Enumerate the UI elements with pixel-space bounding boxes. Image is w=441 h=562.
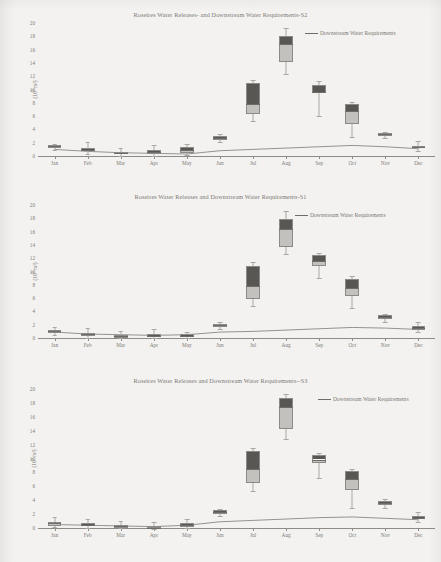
y-axis-tick-label: 16 [30, 230, 35, 235]
whisker-cap-upper [85, 519, 90, 520]
x-axis-tick-label: Dec [414, 161, 423, 166]
box-plot [378, 24, 392, 157]
chart-legend: Downstream Water Requirements [318, 396, 409, 402]
chart-title: Roseires Water Releases and Downstream W… [0, 377, 441, 384]
median-line [213, 325, 227, 326]
whisker-cap-lower [151, 156, 156, 157]
whisker-cap-lower [251, 306, 256, 307]
median-line [312, 261, 326, 262]
x-axis-tick-label: Nov [381, 343, 390, 348]
median-line [412, 328, 426, 329]
chart-legend: Downstream Water Requirements [295, 212, 386, 218]
x-axis-tick-label: Sep [315, 343, 323, 348]
whisker-upper [286, 211, 287, 220]
whisker-cap-lower [151, 338, 156, 339]
x-axis-tick-label: Jan [51, 343, 58, 348]
box-outline [279, 398, 293, 429]
x-axis-tick-label: Nov [381, 161, 390, 166]
y-axis-tick-label: 4 [32, 310, 35, 315]
whisker-cap-lower [416, 522, 421, 523]
downstream-water-requirements-line [38, 390, 435, 528]
whisker-lower [352, 296, 353, 308]
box-plot [147, 390, 161, 529]
box-plot [48, 390, 62, 529]
y-axis-title-exponent: 9 [31, 271, 35, 273]
y-axis-tick-label: 0 [32, 154, 35, 159]
box-plot [81, 390, 95, 529]
box-plot [180, 206, 194, 339]
whisker-lower [286, 247, 287, 254]
whisker-lower [253, 114, 254, 121]
y-axis-title: (109 m³) [31, 241, 38, 301]
whisker-cap-lower [52, 150, 57, 151]
box-plot [180, 24, 194, 157]
box-plot [48, 24, 62, 157]
y-axis-tick-label: 2 [32, 512, 35, 517]
whisker-cap-upper [151, 522, 156, 523]
box-outline [246, 451, 260, 483]
whisker-lower [352, 124, 353, 137]
median-line [246, 104, 260, 105]
box-outline [279, 36, 293, 62]
whisker-cap-upper [251, 262, 256, 263]
median-line [48, 331, 62, 332]
whisker-cap-lower [284, 439, 289, 440]
whisker-cap-upper [52, 517, 57, 518]
median-line [246, 286, 260, 287]
x-axis-tick-label: Jul [250, 343, 256, 348]
x-axis-tick-label: Sep [315, 161, 323, 166]
y-axis-tick-label: 18 [30, 35, 35, 40]
whisker-cap-upper [284, 28, 289, 29]
median-line [345, 288, 359, 289]
whisker-cap-upper [52, 327, 57, 328]
downstream-water-requirements-line [38, 206, 435, 338]
plot-area: 02468101214161820(109 m³)JanFebMarAprMay… [38, 206, 435, 339]
x-axis-tick-label: Mar [116, 533, 125, 538]
x-axis-tick-label: Apr [150, 533, 158, 538]
plot-area: 02468101214161820(109 m³)JanFebMarAprMay… [38, 390, 435, 529]
x-axis-tick-label: Nov [381, 533, 390, 538]
whisker-lower [352, 490, 353, 508]
whisker-lower [319, 93, 320, 116]
median-line [114, 153, 128, 154]
x-axis-tick-label: Apr [150, 161, 158, 166]
median-line [147, 152, 161, 153]
x-axis-tick-label: Aug [282, 533, 291, 538]
box-plot [147, 206, 161, 339]
x-axis-tick-label: Oct [348, 343, 356, 348]
whisker-cap-upper [118, 521, 123, 522]
box-outline [345, 104, 359, 125]
box-plot [279, 24, 293, 157]
x-axis-tick-label: Jun [216, 343, 223, 348]
whisker-cap-upper [350, 469, 355, 470]
y-axis-tick-label: 2 [32, 141, 35, 146]
box-plot [114, 206, 128, 339]
whisker-cap-lower [85, 528, 90, 529]
box-outline [279, 219, 293, 247]
scanned-figure-page: Roseires Water Releases- and Downstream … [0, 0, 441, 562]
whisker-lower [319, 463, 320, 478]
x-axis-tick-label: Aug [282, 343, 291, 348]
whisker-cap-upper [251, 448, 256, 449]
median-line [180, 525, 194, 526]
whisker-cap-upper [317, 453, 322, 454]
y-axis-title-tail: m³) [31, 449, 37, 458]
whisker-cap-upper [317, 253, 322, 254]
box-plot [48, 206, 62, 339]
whisker-cap-lower [118, 338, 123, 339]
whisker-lower [286, 62, 287, 74]
whisker-cap-upper [383, 499, 388, 500]
box-plot [81, 24, 95, 157]
box-plot [345, 24, 359, 157]
median-line [378, 317, 392, 318]
box-plot [114, 24, 128, 157]
box-plot [213, 390, 227, 529]
x-axis-tick-label: May [182, 161, 192, 166]
line-swatch-icon [305, 33, 318, 34]
whisker-cap-upper [284, 394, 289, 395]
whisker-cap-lower [118, 528, 123, 529]
whisker-cap-lower [218, 142, 223, 143]
whisker-cap-lower [350, 137, 355, 138]
box-plot [213, 24, 227, 157]
whisker-cap-lower [85, 154, 90, 155]
